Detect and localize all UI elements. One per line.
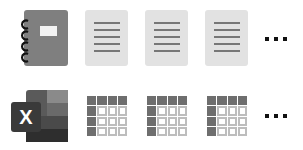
document-icon[interactable] — [205, 10, 248, 66]
spreadsheet-icon[interactable] — [207, 96, 247, 136]
svg-text:X: X — [19, 106, 33, 128]
more-button[interactable] — [265, 37, 287, 41]
notebook-icon[interactable] — [18, 9, 70, 67]
document-icon[interactable] — [145, 10, 188, 66]
ellipsis-icon — [265, 37, 269, 41]
spreadsheet-icon[interactable] — [87, 96, 127, 136]
ellipsis-icon — [265, 114, 269, 118]
excel-icon[interactable]: X — [10, 88, 70, 144]
document-icon[interactable] — [85, 10, 128, 66]
more-button[interactable] — [265, 114, 287, 118]
spreadsheet-icon[interactable] — [147, 96, 187, 136]
